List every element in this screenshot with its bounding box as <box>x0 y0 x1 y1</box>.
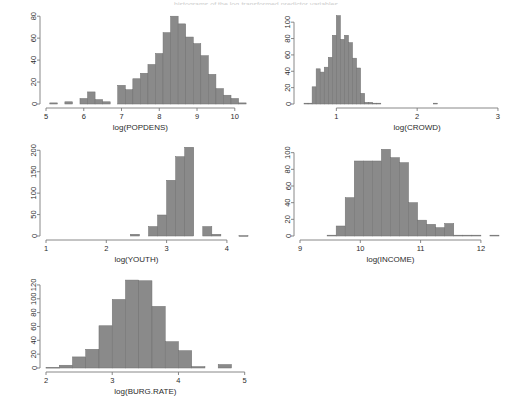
histogram-bar <box>320 72 324 104</box>
y-tick-label: 0 <box>284 102 293 106</box>
histogram-bar <box>46 367 59 368</box>
histogram-bar <box>103 102 111 104</box>
y-tick-label: 40 <box>284 67 293 75</box>
histogram-bar <box>353 58 357 104</box>
histogram-bar <box>88 92 96 104</box>
y-tick-label: 20 <box>30 78 39 86</box>
histogram-bar <box>148 64 156 104</box>
histogram-bar <box>59 365 72 368</box>
x-tick-label: 2 <box>415 112 419 121</box>
histogram-bar <box>178 24 186 104</box>
histogram-bar <box>445 224 454 237</box>
histogram-bar <box>130 234 139 236</box>
bars-group <box>50 16 246 104</box>
x-tick-label: 8 <box>157 112 161 121</box>
histogram-bar <box>65 102 73 104</box>
y-tick-label: 100 <box>30 293 39 306</box>
histogram-bar <box>133 79 141 104</box>
histogram-bar <box>399 163 408 236</box>
histogram-bar <box>327 235 336 236</box>
x-tick-label: 10 <box>231 112 239 121</box>
histogram-bar <box>239 103 247 104</box>
histogram-bar <box>340 39 344 104</box>
histogram-bar <box>304 103 308 104</box>
histogram-bar <box>463 235 472 236</box>
y-tick-label: 20 <box>284 215 293 223</box>
histogram-bar <box>369 102 373 104</box>
x-tick-label: 1 <box>334 112 338 121</box>
histogram-bar <box>354 161 363 236</box>
histogram-bar <box>361 93 365 104</box>
histogram-bar <box>50 103 58 104</box>
histogram-income: 9101112log(INCOME)020406080100 <box>258 140 508 266</box>
y-tick-label: 0 <box>30 234 39 238</box>
x-tick-label: 10 <box>356 244 364 253</box>
y-tick-label: 100 <box>30 187 39 200</box>
x-tick-label: 12 <box>477 244 485 253</box>
histogram-panel-income: 9101112log(INCOME)020406080100 <box>258 140 508 266</box>
histogram-bar <box>216 89 224 104</box>
histogram-bar <box>165 342 178 368</box>
histogram-panel-burgrate: 2345log(BURG.RATE)020406080100120 <box>4 272 254 398</box>
x-tick-label: 3 <box>110 376 114 385</box>
x-tick-label: 5 <box>243 376 247 385</box>
bars-group <box>46 280 231 368</box>
histogram-bar <box>427 224 436 236</box>
histogram-bar <box>86 349 99 368</box>
histogram-bar <box>336 16 340 104</box>
histogram-bar <box>99 326 112 368</box>
histogram-bar <box>454 235 463 236</box>
x-axis-title: log(CROWD) <box>394 123 441 132</box>
histogram-bar <box>328 57 332 104</box>
clipped-top-caption: histograms of the log-transformed predic… <box>0 0 512 5</box>
histogram-bar <box>381 149 390 236</box>
y-tick-label: 20 <box>284 83 293 91</box>
histogram-bar <box>158 215 167 236</box>
histogram-bar <box>345 198 354 236</box>
y-tick-label: 0 <box>30 366 39 370</box>
histogram-popdens: 5678910log(POPDENS)020406080 <box>4 8 254 134</box>
histogram-bar <box>72 357 85 368</box>
histogram-bar <box>344 35 348 104</box>
histogram-bar <box>332 35 336 104</box>
histogram-bar <box>167 180 176 236</box>
y-tick-label: 150 <box>30 165 39 178</box>
histogram-bar <box>390 158 399 236</box>
x-axis-title: log(BURG.RATE) <box>114 387 176 396</box>
bars-group <box>130 147 248 236</box>
histogram-bar <box>156 54 164 104</box>
y-tick-label: 60 <box>30 34 39 42</box>
histogram-bar <box>363 161 372 236</box>
histogram-bar <box>95 100 103 104</box>
histogram-bar <box>80 99 88 104</box>
x-tick-label: 6 <box>82 112 86 121</box>
x-tick-label: 9 <box>298 244 302 253</box>
histogram-bar <box>223 95 231 104</box>
histogram-panel-popdens: 5678910log(POPDENS)020406080 <box>4 8 254 134</box>
histogram-bar <box>373 103 377 104</box>
y-tick-label: 40 <box>30 56 39 64</box>
histogram-bar <box>436 228 445 236</box>
histogram-bar <box>316 69 320 104</box>
histogram-panel-youth: 1234log(YOUTH)050100150200 <box>4 140 254 266</box>
bars-group <box>304 16 437 104</box>
x-tick-label: 4 <box>225 244 229 253</box>
histogram-bar <box>125 280 138 368</box>
y-tick-label: 100 <box>284 146 293 159</box>
histogram-panel-crowd: 123log(CROWD)020406080100 <box>258 8 508 134</box>
histogram-bar <box>433 103 437 104</box>
y-tick-label: 60 <box>284 182 293 190</box>
histogram-bar <box>312 87 316 104</box>
x-tick-label: 4 <box>176 376 180 385</box>
y-tick-label: 80 <box>284 34 293 42</box>
histogram-bar <box>112 299 125 368</box>
histogram-bar <box>140 73 148 104</box>
histogram-bar <box>193 44 201 104</box>
y-tick-label: 20 <box>30 350 39 358</box>
histogram-bar <box>192 367 205 368</box>
y-tick-label: 80 <box>30 308 39 316</box>
histogram-bar <box>201 56 209 104</box>
x-tick-label: 11 <box>417 244 425 253</box>
x-axis-title: log(POPDENS) <box>113 123 168 132</box>
histogram-bar <box>125 90 133 104</box>
